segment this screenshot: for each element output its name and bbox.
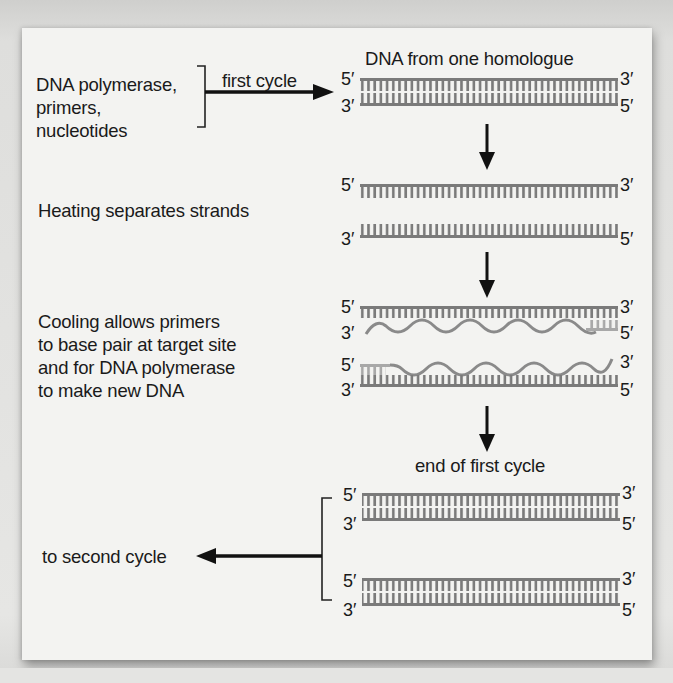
heating-step-label: Heating separates strands	[38, 199, 249, 222]
template-strand	[360, 384, 618, 387]
down-arrow-3	[479, 406, 495, 452]
five-prime-label: 5′	[341, 298, 354, 316]
strand-bottom	[360, 103, 618, 106]
five-prime-label: 5′	[341, 356, 354, 374]
primer-strand	[360, 364, 390, 367]
three-prime-label: 3′	[620, 176, 633, 194]
reagents-bracket	[197, 66, 205, 127]
three-prime-label: 3′	[620, 353, 633, 371]
five-prime-label: 5′	[343, 486, 356, 504]
down-arrow-2	[479, 252, 495, 298]
primed-duplex-a	[360, 306, 618, 334]
five-prime-label: 5′	[620, 97, 633, 115]
original-duplex	[360, 78, 618, 106]
reagents-label: DNA polymerase, primers, nucleotides	[36, 73, 177, 142]
three-prime-label: 3′	[622, 484, 635, 502]
three-prime-label: 3′	[620, 70, 633, 88]
primer-strand	[586, 328, 618, 331]
five-prime-label: 5′	[341, 70, 354, 88]
three-prime-label: 3′	[341, 97, 354, 115]
three-prime-label: 3′	[341, 381, 354, 399]
caption-strip	[0, 668, 673, 683]
new-dna-wave	[366, 320, 596, 334]
figure-title: DNA from one homologue	[365, 47, 573, 70]
three-prime-label: 3′	[622, 570, 635, 588]
strand-top	[360, 78, 618, 81]
primed-duplex-b	[360, 359, 618, 387]
second-cycle-bracket	[322, 498, 332, 600]
template-strand	[360, 306, 618, 309]
strand-bottom	[360, 235, 618, 238]
primer-ticks	[590, 320, 618, 328]
three-prime-label: 3′	[341, 324, 354, 342]
three-prime-label: 3′	[343, 601, 356, 619]
primer-ticks	[360, 367, 386, 375]
five-prime-label: 5′	[343, 572, 356, 590]
second-cycle-label: to second cycle	[42, 545, 167, 568]
end-of-cycle-label: end of first cycle	[415, 454, 545, 477]
three-prime-label: 3′	[620, 298, 633, 316]
final-duplex-1	[362, 493, 620, 521]
final-duplex-2	[362, 578, 620, 606]
cooling-step-label: Cooling allows primers to base pair at t…	[38, 310, 236, 402]
strand-top	[360, 184, 618, 187]
five-prime-label: 5′	[620, 324, 633, 342]
first-cycle-label: first cycle	[222, 69, 297, 92]
five-prime-label: 5′	[341, 176, 354, 194]
down-arrow-1	[479, 124, 495, 170]
five-prime-label: 5′	[622, 515, 635, 533]
separated-strands	[360, 184, 618, 238]
new-dna-wave	[390, 359, 612, 375]
second-cycle-arrow	[196, 548, 322, 564]
three-prime-label: 3′	[341, 230, 354, 248]
five-prime-label: 5′	[620, 230, 633, 248]
three-prime-label: 3′	[343, 515, 356, 533]
five-prime-label: 5′	[622, 601, 635, 619]
five-prime-label: 5′	[620, 381, 633, 399]
